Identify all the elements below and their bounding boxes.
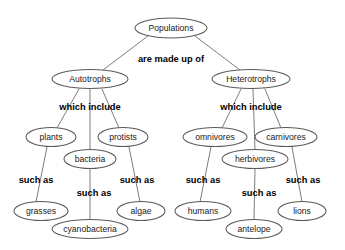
node-algae[interactable]: algae [117, 202, 165, 221]
node-populations[interactable]: Populations [135, 18, 207, 38]
link-label-such-as-bacteria: such as [77, 188, 112, 198]
node-label-grasses: grasses [26, 206, 56, 216]
link-label-are-made-up-of: are made up of [138, 54, 205, 64]
node-carnivores[interactable]: carnivores [255, 128, 317, 147]
node-label-omnivores: omnivores [195, 132, 235, 142]
node-plants[interactable]: plants [26, 128, 76, 147]
node-label-heterotrophs: Heterotrophs [226, 74, 276, 84]
node-lions[interactable]: lions [278, 202, 326, 221]
node-heterotrophs[interactable]: Heterotrophs [212, 70, 290, 89]
node-label-cyanobacteria: cyanobacteria [63, 224, 117, 234]
link-label-which-include-right: which include [219, 102, 281, 112]
node-omnivores[interactable]: omnivores [183, 128, 247, 147]
node-herbivores[interactable]: herbivores [222, 150, 288, 169]
link-label-which-include-left: which include [58, 102, 120, 112]
link-label-such-as-herbivores: such as [242, 188, 277, 198]
node-label-bacteria: bacteria [75, 154, 106, 164]
node-label-autotrophs: Autotrophs [69, 74, 111, 84]
edge-populations-autotrophs [103, 36, 148, 70]
node-label-algae: algae [130, 206, 151, 216]
concept-map-diagram: PopulationsAutotrophsHeterotrophsplantsp… [0, 0, 345, 250]
node-label-antelope: antelope [238, 224, 271, 234]
link-label-such-as-protists: such as [120, 175, 155, 185]
node-protists[interactable]: protists [98, 128, 148, 147]
link-label-such-as-carnivores: such as [286, 175, 321, 185]
edge-heterotrophs-herbivores [253, 89, 255, 150]
node-label-populations: Populations [149, 23, 194, 33]
node-label-lions: lions [293, 206, 311, 216]
node-label-protists: protists [109, 132, 137, 142]
concept-map-container: PopulationsAutotrophsHeterotrophsplantsp… [0, 0, 345, 250]
node-bacteria[interactable]: bacteria [64, 150, 116, 169]
node-label-herbivores: herbivores [235, 154, 275, 164]
node-autotrophs[interactable]: Autotrophs [52, 70, 128, 89]
node-cyanobacteria[interactable]: cyanobacteria [52, 220, 128, 239]
node-label-plants: plants [40, 132, 63, 142]
node-antelope[interactable]: antelope [226, 220, 282, 239]
node-grasses[interactable]: grasses [14, 202, 68, 221]
edge-populations-heterotrophs [195, 36, 240, 70]
node-humans[interactable]: humans [175, 202, 231, 221]
node-label-carnivores: carnivores [266, 132, 306, 142]
link-label-such-as-plants: such as [19, 175, 54, 185]
link-label-such-as-omnivores: such as [186, 175, 221, 185]
nodes-layer: PopulationsAutotrophsHeterotrophsplantsp… [14, 18, 326, 239]
node-label-humans: humans [188, 206, 219, 216]
